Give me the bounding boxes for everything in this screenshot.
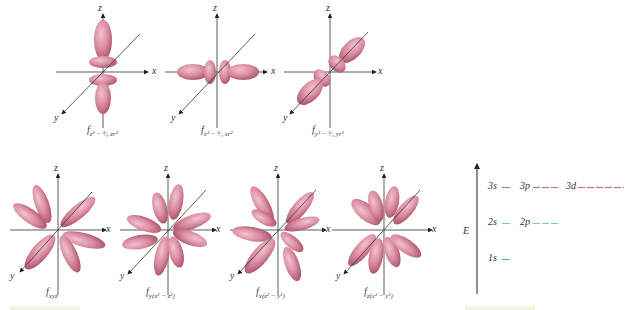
level-1s-label: 1s bbox=[488, 252, 497, 263]
level-3s-label: 3s bbox=[488, 180, 497, 191]
x-axis-label: x bbox=[378, 65, 382, 76]
orbital-fy3-graphic bbox=[270, 0, 390, 140]
energy-level-diagram: E 3s 3p 3d 2s 2p 1s bbox=[450, 150, 637, 310]
y-axis-label: y bbox=[10, 270, 14, 281]
level-2s-bar bbox=[502, 223, 510, 224]
orbital-caption: fy(x² − z²) bbox=[146, 286, 175, 300]
level-3s-bar bbox=[502, 187, 510, 188]
y-axis-label: y bbox=[336, 270, 340, 281]
orbital-caption: fz³ − ³⁄₅ zr² bbox=[87, 124, 118, 138]
y-axis-label: y bbox=[283, 112, 287, 123]
orbital-fy3-panel: z x y fy³ − ³⁄₅ yr² bbox=[270, 0, 390, 140]
level-3p-bar bbox=[533, 187, 559, 188]
z-axis-label: z bbox=[54, 162, 58, 173]
y-axis-label: y bbox=[230, 270, 234, 281]
z-axis-label: z bbox=[274, 162, 278, 173]
orbital-fxyz-panel: z x y fxyz bbox=[0, 160, 120, 310]
level-2p-bar bbox=[533, 223, 559, 224]
orbital-caption: fx(z² − y²) bbox=[256, 286, 285, 300]
decorative-strip bbox=[465, 306, 535, 310]
orbital-caption: fz(x² − y²) bbox=[364, 286, 393, 300]
decorative-strip bbox=[10, 306, 80, 310]
level-3p-label: 3p bbox=[520, 180, 530, 191]
y-axis-label: y bbox=[171, 112, 175, 123]
y-axis-label: y bbox=[54, 112, 58, 123]
level-2s-label: 2s bbox=[488, 216, 497, 227]
orbital-fz-x2-y2-panel: z x y fz(x² − y²) bbox=[320, 160, 440, 310]
orbital-caption: fxyz bbox=[46, 286, 58, 300]
orbital-caption: fx³ − ³⁄₅ xr² bbox=[201, 124, 233, 138]
z-axis-label: z bbox=[380, 162, 384, 173]
orbital-caption: fy³ − ³⁄₅ yr² bbox=[312, 124, 344, 138]
z-axis-label: z bbox=[326, 2, 330, 13]
level-3d-bar bbox=[578, 187, 624, 188]
orbital-fy-x2-z2-panel: z x y fy(x² − z²) bbox=[110, 160, 230, 310]
z-axis-label: z bbox=[98, 2, 102, 13]
level-2p-label: 2p bbox=[520, 216, 530, 227]
z-axis-label: z bbox=[213, 2, 217, 13]
x-axis-label: x bbox=[432, 223, 436, 234]
energy-axis-graphic bbox=[450, 150, 637, 310]
orbital-fx3-panel: z x y fx³ − ³⁄₅ xr² bbox=[155, 0, 285, 140]
orbital-fxyz-graphic bbox=[0, 160, 120, 310]
level-1s-bar bbox=[502, 259, 510, 260]
z-axis-label: z bbox=[164, 162, 168, 173]
y-axis-label: y bbox=[120, 270, 124, 281]
energy-axis-label: E bbox=[463, 225, 469, 236]
level-3d-label: 3d bbox=[566, 180, 576, 191]
